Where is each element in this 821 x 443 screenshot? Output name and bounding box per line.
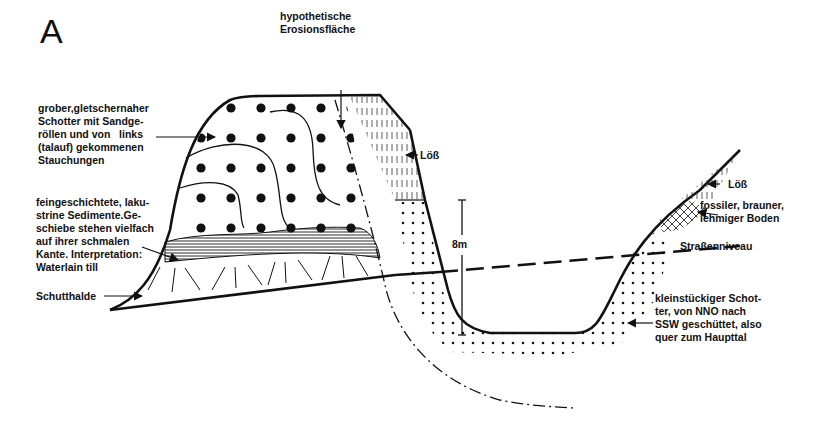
- label-road-level: Straßenniveau: [680, 240, 752, 253]
- label-scale: 8m: [452, 238, 467, 251]
- label-loess-right: Löß: [728, 178, 747, 191]
- diagram-canvas: A: [0, 0, 821, 443]
- label-paleosol: fossiler, brauner, lehmiger Boden: [700, 199, 784, 225]
- label-erosion-surface: hypothetische Erosionsfläche: [280, 10, 355, 36]
- label-talus: Schutthalde: [36, 290, 96, 303]
- label-lacustrine-sediments: feingeschichtete, laku- strine Sedimente…: [36, 196, 154, 274]
- loess-right-unit: [680, 150, 740, 200]
- talus-unit: [148, 256, 368, 292]
- label-fine-gravel: kleinstückiger Schot- ter, von NNO nach …: [655, 292, 762, 344]
- label-coarse-gravel: grober,gletschernaher Schotter mit Sandg…: [38, 102, 149, 167]
- label-loess-left: Löß: [420, 149, 439, 162]
